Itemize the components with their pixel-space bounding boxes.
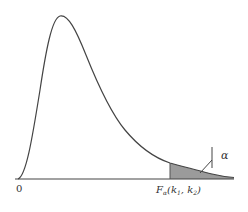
density-curve bbox=[18, 16, 234, 179]
svg-text:Fα(k1, k2): Fα(k1, k2) bbox=[155, 184, 201, 196]
critical-value-label: Fα(k1, k2) bbox=[155, 184, 201, 196]
alpha-leader bbox=[200, 160, 212, 173]
alpha-label: α bbox=[221, 149, 229, 162]
origin-label: 0 bbox=[16, 183, 22, 194]
f-distribution-diagram: 0 α Fα(k1, k2) bbox=[0, 0, 248, 212]
